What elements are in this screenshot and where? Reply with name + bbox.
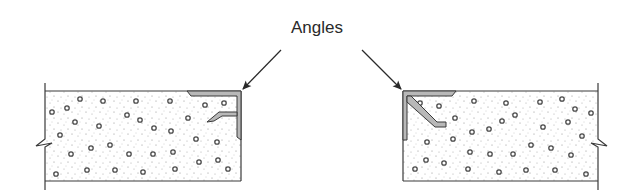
left-arrow	[243, 50, 281, 89]
angles-label: Angles	[291, 18, 343, 38]
left-slab	[36, 83, 241, 190]
right-arrow	[362, 50, 401, 89]
concrete-fill	[403, 91, 598, 181]
concrete-fill	[45, 91, 241, 181]
right-slab	[403, 83, 607, 190]
